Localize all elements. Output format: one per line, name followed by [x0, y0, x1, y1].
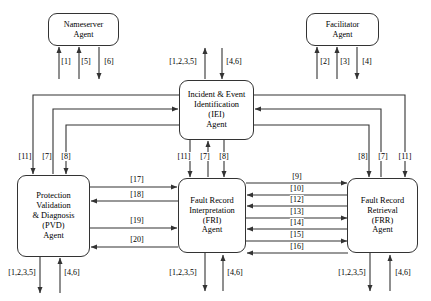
node-label-line: Retrieval [367, 206, 398, 216]
edge-label-fri-frr-10: [10] [290, 184, 304, 193]
edge-label-fri-frr-13: [13] [290, 207, 304, 216]
diagram-canvas: Nameserver Agent Facilitator Agent Incid… [0, 0, 431, 301]
node-label-line: Facilitator [326, 20, 360, 30]
node-label-line: (FRI) [203, 216, 222, 226]
edge-label-fri-up-8: [8] [219, 152, 229, 161]
edge-label-pvd-left-7: [7] [42, 152, 52, 161]
edge-label-frr-right-7: [7] [378, 152, 388, 161]
edge-label-fri-frr-15: [15] [290, 230, 304, 239]
node-label-line: Interpretation [189, 206, 235, 216]
edge-label-fri-frr-14: [14] [290, 218, 304, 227]
edge-label-frr-bottom-out: [1,2,3,5] [338, 268, 366, 277]
edge-label-fri-frr-9: [9] [292, 172, 302, 181]
node-label-line: Nameserver [64, 20, 104, 30]
node-label-line: Agent [202, 225, 222, 235]
edge-label-ns-5: [5] [81, 57, 91, 66]
node-facilitator-agent[interactable]: Facilitator Agent [306, 13, 379, 46]
edge-label-fac-2: [2] [320, 57, 330, 66]
edge-label-pvd-fri-20: [20] [130, 235, 144, 244]
edge-label-iei-top-out: [1,2,3,5] [169, 57, 197, 66]
node-label-line: Fault Record [190, 196, 234, 206]
edge-label-ns-6: [6] [104, 57, 114, 66]
node-label-line: & Diagnosis [32, 211, 74, 221]
node-label-line: (IEI) [208, 110, 224, 120]
node-label-line: Protection [36, 191, 70, 201]
edge-label-frr-bottom-in: [4,6] [395, 268, 411, 277]
node-label-line: (FRR) [372, 216, 393, 226]
edge-label-pvd-bottom-out: [1,2,3,5] [8, 268, 36, 277]
node-label-line: Validation [36, 201, 70, 211]
edge-label-frr-right-8: [8] [358, 152, 368, 161]
edge-label-fri-up-7: [7] [200, 152, 210, 161]
node-label-line: Agent [43, 231, 63, 241]
edge-label-pvd-left-11: [11] [18, 152, 32, 161]
edge-label-fri-bottom-in: [4,6] [227, 268, 243, 277]
edge-label-frr-right-11: [11] [398, 152, 412, 161]
node-label-line: (PVD) [42, 221, 64, 231]
edge-label-fri-bottom-out: [1,2,3,5] [169, 268, 197, 277]
node-nameserver-agent[interactable]: Nameserver Agent [48, 13, 119, 46]
edge-label-fac-3: [3] [340, 57, 350, 66]
node-iei-agent[interactable]: Incident & Event Identification (IEI) Ag… [179, 80, 254, 140]
node-label-line: Agent [372, 225, 392, 235]
edge-label-fri-frr-16: [16] [290, 242, 304, 251]
edge-label-pvd-bottom-in: [4,6] [64, 268, 80, 277]
node-label-line: Incident & Event [188, 90, 246, 100]
edge-label-fri-up-11: [11] [177, 152, 191, 161]
edge-label-pvd-fri-18: [18] [130, 190, 144, 199]
node-frr-agent[interactable]: Fault Record Retrieval (FRR) Agent [347, 178, 418, 253]
node-label-line: Agent [332, 30, 352, 40]
node-label-line: Agent [206, 120, 226, 130]
node-label-line: Fault Record [361, 196, 405, 206]
edge-label-pvd-fri-17: [17] [130, 175, 144, 184]
node-pvd-agent[interactable]: Protection Validation & Diagnosis (PVD) … [17, 175, 90, 257]
edge-label-fri-frr-12: [12] [290, 195, 304, 204]
node-label-line: Identification [194, 100, 239, 110]
edge-label-pvd-left-8: [8] [61, 152, 71, 161]
edge-label-pvd-fri-19: [19] [130, 216, 144, 225]
edge-label-ns-1: [1] [61, 57, 71, 66]
node-label-line: Agent [73, 30, 93, 40]
edge-label-fac-4: [4] [362, 57, 372, 66]
node-fri-agent[interactable]: Fault Record Interpretation (FRI) Agent [178, 178, 246, 253]
edge-label-iei-top-in: [4,6] [226, 57, 242, 66]
